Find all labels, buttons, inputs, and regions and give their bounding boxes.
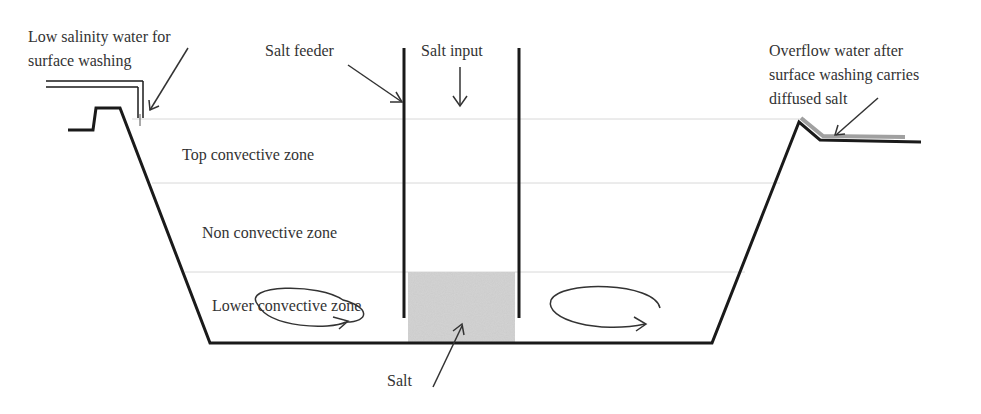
- label-salt: Salt: [387, 372, 412, 389]
- label-overflow-1: Overflow water after: [769, 42, 904, 59]
- label-top-convective-zone: Top convective zone: [182, 146, 314, 164]
- label-low-salinity-2: surface washing: [28, 52, 132, 70]
- label-salt-feeder: Salt feeder: [265, 42, 335, 59]
- label-overflow-2: surface washing carries: [769, 66, 919, 84]
- arrow-low-salinity: [150, 48, 188, 110]
- convection-loop-right: [550, 287, 660, 331]
- label-lower-convective-zone: Lower convective zone: [212, 297, 361, 314]
- salt-deposit: [408, 272, 515, 343]
- label-low-salinity-1: Low salinity water for: [28, 28, 171, 46]
- solar-pond-diagram: Low salinity water for surface washing S…: [0, 0, 981, 414]
- label-overflow-3: diffused salt: [769, 90, 848, 107]
- arrow-salt-feeder: [348, 65, 402, 102]
- label-salt-input: Salt input: [421, 42, 483, 60]
- label-non-convective-zone: Non convective zone: [202, 224, 337, 241]
- zone-boundaries: [132, 119, 805, 272]
